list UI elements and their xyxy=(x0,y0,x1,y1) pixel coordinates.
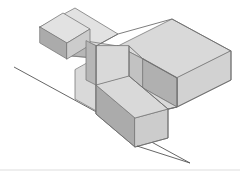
c-shaped-solid xyxy=(40,8,231,147)
figure-canvas xyxy=(0,0,240,174)
center-body-left-face xyxy=(86,41,96,85)
isometric-solid-illustration xyxy=(0,0,240,174)
